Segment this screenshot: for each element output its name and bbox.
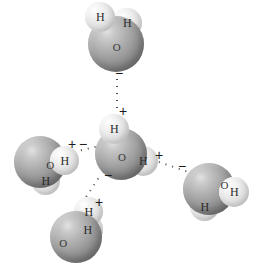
charge-layer: −++−+−−+ (0, 0, 256, 266)
partial-charge-sign: + (95, 195, 103, 209)
partial-charge-sign: − (79, 137, 87, 151)
partial-charge-sign: + (68, 137, 76, 151)
partial-charge-sign: + (155, 148, 163, 162)
partial-charge-sign: − (178, 159, 186, 173)
partial-charge-sign: + (119, 104, 127, 118)
partial-charge-sign: − (104, 168, 112, 182)
water-hydrogen-bonding-diagram: OHHOHHOHHOHHOHH −++−+−−+ (0, 0, 256, 266)
partial-charge-sign: − (115, 66, 123, 80)
